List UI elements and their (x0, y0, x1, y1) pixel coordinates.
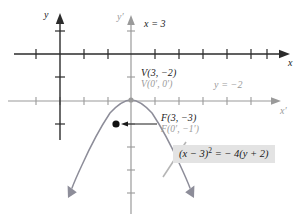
parabola-diagram: y y′ x x′ x = 3 y = −2 V(3, −2) V(0′, 0′… (0, 0, 306, 218)
x-prime-axis (8, 97, 281, 105)
vertex-point-marker (128, 97, 133, 102)
equation-rhs: = − 4(y + 2) (212, 148, 269, 159)
vertex-label-translated: V(0′, 0′) (141, 80, 172, 90)
y-prime-axis-label: y′ (117, 12, 124, 23)
y-prime-axis (127, 15, 135, 214)
x-axis (14, 49, 290, 59)
focus-label-primary: F(3, −3) (161, 113, 196, 124)
x-axis-label: x (288, 58, 293, 69)
x-prime-axis-label: x′ (280, 106, 287, 117)
equation-callout: (x − 3)2 = − 4(y + 2) (173, 145, 275, 163)
y-axis-label: y (44, 10, 49, 21)
horizontal-line-label: y = −2 (214, 80, 243, 91)
graph-canvas (0, 0, 306, 218)
equation-lhs: (x − 3) (179, 148, 208, 159)
directrix-vertical-label: x = 3 (144, 19, 166, 30)
focus-point-marker (112, 120, 119, 127)
focus-label-translated: F(0′, −1′) (161, 125, 199, 135)
vertex-label-primary: V(3, −2) (141, 68, 176, 79)
y-axis (55, 13, 65, 140)
focus-leader-arrow (121, 121, 157, 126)
